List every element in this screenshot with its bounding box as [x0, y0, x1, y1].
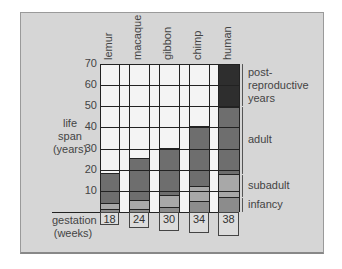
y-axis-label: life span (years) [50, 117, 90, 156]
gestation-label: gestation (weeks) [52, 214, 94, 240]
column-label-macaque: macaque [131, 15, 143, 60]
brace-infancy [242, 198, 246, 212]
bar-macaque-subadult [129, 200, 149, 209]
column-label-gibbon: gibbon [161, 27, 173, 60]
brace-post-reproductive [242, 64, 246, 106]
bar-macaque-adult [129, 158, 149, 200]
ytick-50: 50 [75, 99, 97, 111]
column-label-chimp: chimp [191, 31, 203, 60]
gridline-v [239, 64, 240, 212]
bar-gibbon-subadult [159, 195, 179, 207]
label-post-reproductive: post- reproductive years [248, 66, 309, 105]
ytick-60: 60 [75, 78, 97, 90]
ytick-20: 20 [75, 163, 97, 175]
gridline-v [149, 64, 150, 212]
y-axis-label-line2: span [50, 130, 90, 143]
label-post-line1: post- [248, 66, 309, 79]
column-label-lemur: lemur [102, 32, 114, 60]
label-subadult: subadult [248, 179, 290, 192]
bar-chimp-infancy [189, 201, 209, 212]
gestation-label-line1: gestation [52, 214, 94, 227]
gestation-label-line2: (weeks) [52, 227, 94, 240]
brace-adult [242, 107, 246, 174]
gestation-lemur: 18 [100, 212, 119, 225]
label-post-line3: years [248, 92, 309, 105]
bar-gibbon-adult [159, 148, 179, 195]
gridline-v [159, 64, 160, 212]
gridline-v [209, 64, 210, 212]
label-post-line2: reproductive [248, 79, 309, 92]
gridline-v [179, 64, 180, 212]
gridline-v [129, 64, 130, 212]
bar-human-subadult [218, 174, 239, 197]
bar-chimp-adult [189, 126, 209, 186]
gridline-v [218, 64, 219, 212]
gestation-chimp: 34 [189, 212, 209, 233]
bar-human-adult [218, 107, 239, 174]
label-infancy: infancy [248, 198, 283, 211]
bar-lemur-adult [100, 173, 119, 203]
gridline-v [189, 64, 190, 212]
gridline-v [100, 64, 101, 212]
gestation-gibbon: 30 [159, 212, 179, 231]
gridline-v [119, 64, 120, 212]
y-axis-label-line1: life [50, 117, 90, 130]
column-label-human: human [221, 26, 233, 60]
gestation-macaque: 24 [129, 212, 149, 228]
y-axis-label-line3: (years) [50, 143, 90, 156]
bar-chimp-subadult [189, 186, 209, 201]
label-adult: adult [248, 133, 272, 146]
bar-human-infancy [218, 197, 239, 212]
ytick-10: 10 [75, 184, 97, 196]
gestation-human: 38 [218, 212, 239, 236]
brace-subadult [242, 175, 246, 197]
ytick-70: 70 [75, 57, 97, 69]
